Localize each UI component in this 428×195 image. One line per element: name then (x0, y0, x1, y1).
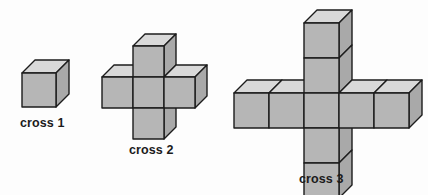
cube-face-front (304, 23, 339, 58)
cube-face-front (133, 77, 164, 108)
cube-face-front (22, 73, 56, 107)
caption-cross-2: cross 2 (129, 143, 173, 157)
figure-cross-3 (232, 8, 424, 195)
figure-cross-1 (20, 58, 71, 109)
cube-face-front (304, 93, 339, 128)
caption-cross-3: cross 3 (299, 172, 343, 186)
cube-stack-cross-3 (232, 8, 424, 195)
cube-face-front (133, 108, 164, 139)
cube-face-front (374, 93, 409, 128)
cube-stack-cross-2 (100, 32, 209, 141)
cube-face-front (339, 93, 374, 128)
cube-stack-cross-1 (20, 58, 71, 109)
cube-face-front (269, 93, 304, 128)
cube-face-front (102, 77, 133, 108)
cube-face-front (164, 77, 195, 108)
cube-face-front (234, 93, 269, 128)
figure-cross-2 (100, 32, 209, 141)
caption-cross-1: cross 1 (20, 116, 64, 130)
cube-face-front (304, 58, 339, 93)
cube-face-front (304, 128, 339, 163)
cube-face-front (133, 46, 164, 77)
